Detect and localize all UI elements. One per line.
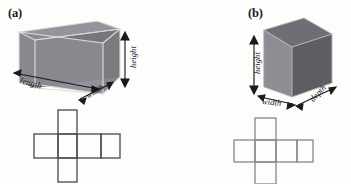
net-a-face-right	[77, 134, 101, 158]
panel-a: (a)	[0, 0, 175, 184]
net-b	[234, 118, 313, 184]
net-a-face-back	[101, 134, 120, 158]
net-b-face-left	[234, 140, 255, 162]
net-a-face-front	[58, 134, 77, 158]
net-b-face-top	[255, 118, 276, 140]
figure-root: (a)	[0, 0, 351, 184]
net-b-face-front	[255, 140, 276, 162]
net-a-face-left	[34, 134, 58, 158]
panel-b: (b)	[176, 0, 351, 184]
net-a-face-bottom	[58, 158, 77, 182]
net-b-face-bottom	[255, 162, 276, 184]
net-a	[34, 110, 120, 182]
net-b-face-right	[276, 140, 297, 162]
dimension-label-width: width	[262, 96, 282, 108]
net-b-face-back	[297, 140, 313, 162]
dimension-label-height: height	[252, 52, 262, 74]
net-a-face-top	[58, 110, 77, 134]
dimension-label-height: height	[128, 46, 138, 68]
